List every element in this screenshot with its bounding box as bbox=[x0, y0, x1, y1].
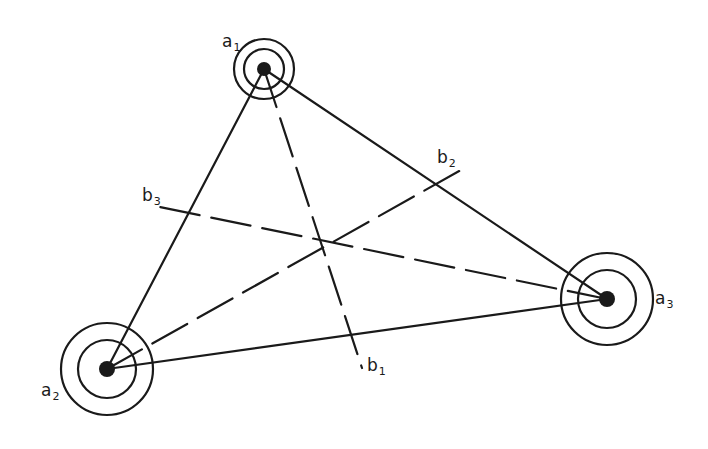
median-a1-b1 bbox=[264, 69, 362, 368]
median-label-b2: b2 bbox=[437, 147, 456, 170]
node-label-a2: a2 bbox=[41, 380, 59, 403]
node-a3-dot bbox=[599, 291, 615, 307]
median-label-b3: b3 bbox=[142, 185, 161, 208]
node-a2-dot bbox=[99, 361, 115, 377]
edge-a2-a3 bbox=[107, 299, 607, 369]
triangle-median-diagram: a1a2a3b1b2b3 bbox=[0, 0, 708, 449]
node-a1-dot bbox=[257, 62, 271, 76]
median-label-b1: b1 bbox=[367, 355, 386, 378]
node-label-a1: a1 bbox=[222, 31, 240, 54]
node-label-a3: a3 bbox=[655, 288, 673, 311]
diagram-canvas: a1a2a3b1b2b3 bbox=[0, 0, 708, 449]
